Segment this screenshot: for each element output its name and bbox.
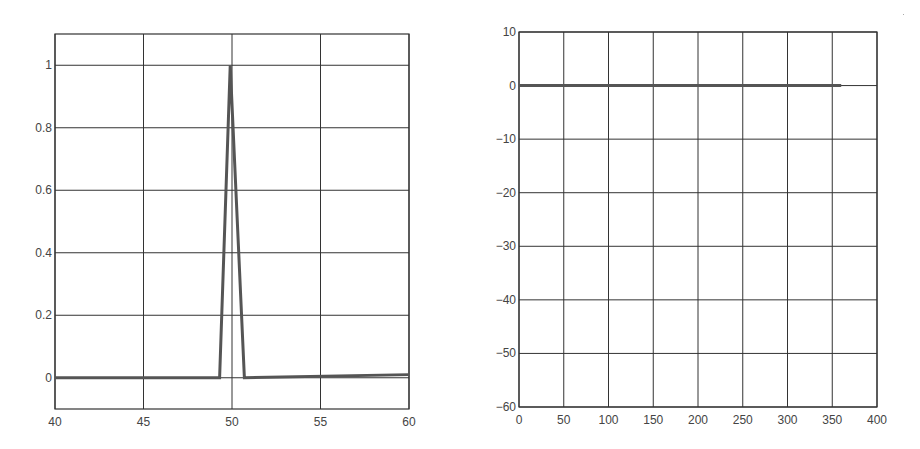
y-tick-label: −60 (496, 400, 517, 414)
y-tick-label: −50 (496, 346, 517, 360)
x-tick-label: 60 (402, 415, 416, 429)
x-tick-label: 200 (688, 413, 708, 427)
y-tick-label: 0 (509, 79, 516, 93)
chart-left-pulse: 404550556000.20.40.60.81 (0, 0, 460, 449)
x-tick-label: 50 (557, 413, 571, 427)
chart-right-response: 050100150200250300350400100−10−20−30−40−… (460, 0, 920, 449)
y-tick-label: −30 (496, 239, 517, 253)
y-tick-label: 0.6 (35, 183, 52, 197)
x-tick-label: 40 (48, 415, 62, 429)
x-tick-label: 100 (598, 413, 618, 427)
chart-right-plot: 050100150200250300350400100−10−20−30−40−… (460, 0, 920, 449)
y-tick-label: 1 (45, 58, 52, 72)
y-tick-label: 0.4 (35, 246, 52, 260)
x-tick-label: 250 (733, 413, 753, 427)
x-tick-label: 55 (314, 415, 328, 429)
y-tick-label: 0.8 (35, 121, 52, 135)
y-tick-label: −40 (496, 293, 517, 307)
x-tick-label: 150 (643, 413, 663, 427)
x-tick-label: 45 (137, 415, 151, 429)
chart-left-plot: 404550556000.20.40.60.81 (0, 0, 460, 449)
x-tick-label: 300 (777, 413, 797, 427)
x-tick-label: 400 (867, 413, 887, 427)
x-tick-label: 50 (225, 415, 239, 429)
y-tick-label: −20 (496, 186, 517, 200)
y-tick-label: 0 (45, 371, 52, 385)
speck (903, 14, 904, 15)
y-tick-label: 0.2 (35, 308, 52, 322)
y-tick-label: 10 (503, 25, 517, 39)
y-tick-label: −10 (496, 132, 517, 146)
x-tick-label: 0 (516, 413, 523, 427)
x-tick-label: 350 (822, 413, 842, 427)
